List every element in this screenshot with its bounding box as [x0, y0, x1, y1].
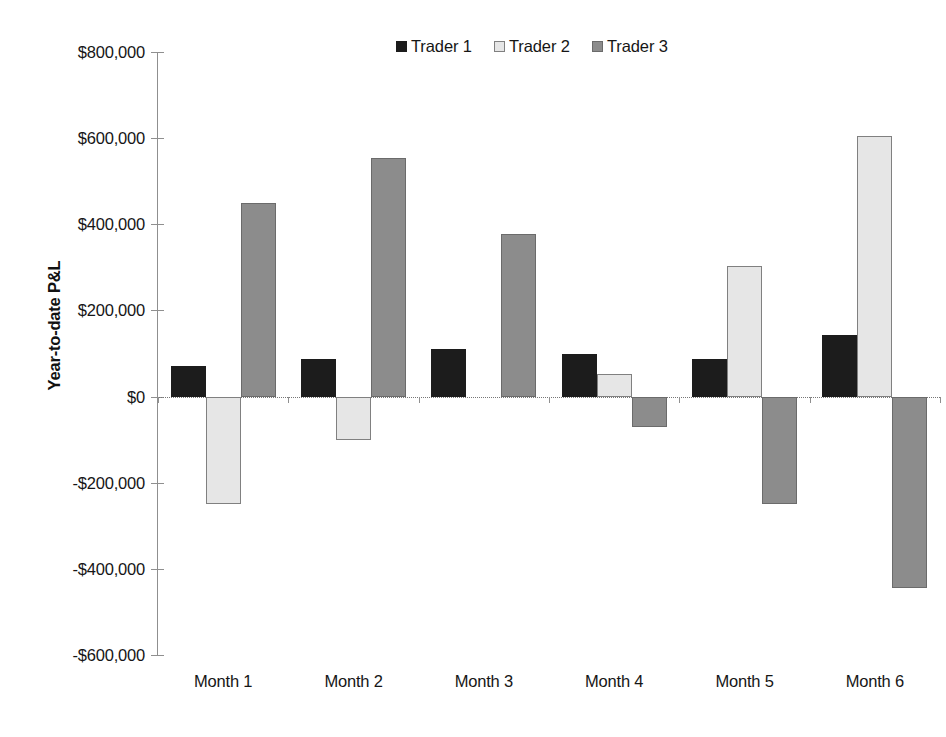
y-tick-mark — [151, 569, 164, 570]
x-tick-label: Month 6 — [846, 672, 904, 691]
y-axis-title: Year-to-date P&L — [45, 226, 64, 426]
y-tick-label: -$400,000 — [72, 559, 145, 578]
bar-month-4-trader-3[interactable] — [632, 397, 667, 427]
bar-month-5-trader-1[interactable] — [692, 359, 727, 396]
y-tick-label: $600,000 — [78, 129, 145, 148]
x-tick-label: Month 1 — [194, 672, 252, 691]
bar-month-3-trader-1[interactable] — [431, 349, 466, 396]
y-tick-mark — [151, 483, 164, 484]
bar-month-4-trader-1[interactable] — [562, 354, 597, 397]
x-tick-mark — [288, 397, 289, 403]
y-tick-mark — [151, 224, 164, 225]
x-tick-label: Month 5 — [715, 672, 773, 691]
y-tick-mark — [151, 655, 164, 656]
y-tick-label: $400,000 — [78, 215, 145, 234]
bar-month-1-trader-2[interactable] — [206, 397, 241, 505]
bar-month-5-trader-2[interactable] — [727, 266, 762, 397]
bar-month-2-trader-2[interactable] — [336, 397, 371, 440]
y-tick-mark — [151, 52, 164, 53]
bar-month-1-trader-1[interactable] — [171, 366, 206, 396]
x-tick-label: Month 2 — [324, 672, 382, 691]
bar-month-6-trader-1[interactable] — [822, 335, 857, 397]
bar-month-4-trader-2[interactable] — [597, 374, 632, 397]
x-tick-mark — [679, 397, 680, 403]
x-tick-mark — [419, 397, 420, 403]
x-tick-label: Month 3 — [455, 672, 513, 691]
legend-swatch-icon — [396, 41, 407, 52]
bar-month-3-trader-3[interactable] — [501, 234, 536, 397]
bar-month-2-trader-3[interactable] — [371, 158, 406, 396]
legend-swatch-icon — [494, 41, 505, 52]
bar-month-5-trader-3[interactable] — [762, 397, 797, 505]
y-tick-mark — [151, 138, 164, 139]
x-tick-mark — [940, 397, 941, 403]
y-tick-label: $0 — [127, 387, 145, 406]
bar-month-6-trader-3[interactable] — [892, 397, 927, 589]
y-tick-label: $800,000 — [78, 43, 145, 62]
x-tick-mark — [810, 397, 811, 403]
x-tick-mark — [158, 397, 159, 403]
y-tick-label: -$200,000 — [72, 473, 145, 492]
bar-month-6-trader-2[interactable] — [857, 136, 892, 397]
y-tick-mark — [151, 310, 164, 311]
y-tick-label: -$600,000 — [72, 646, 145, 665]
legend-swatch-icon — [592, 41, 603, 52]
bar-chart: Trader 1Trader 2Trader 3 Year-to-date P&… — [0, 0, 946, 737]
y-axis-line — [157, 52, 158, 655]
bar-month-2-trader-1[interactable] — [301, 359, 336, 396]
x-tick-mark — [549, 397, 550, 403]
plot-area: $800,000$600,000$400,000$200,000$0-$200,… — [158, 52, 940, 655]
bar-month-1-trader-3[interactable] — [241, 203, 276, 397]
y-tick-label: $200,000 — [78, 301, 145, 320]
x-tick-label: Month 4 — [585, 672, 643, 691]
